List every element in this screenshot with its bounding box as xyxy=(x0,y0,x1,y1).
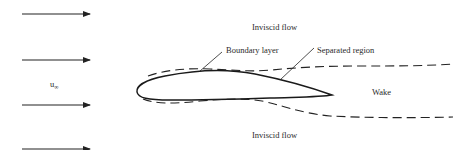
freestream-velocity-label: u∞ xyxy=(50,79,59,90)
separated-region-leader xyxy=(280,48,314,80)
boundary-layer-leader xyxy=(200,52,222,71)
airfoil-flow-diagram: u∞ Inviscid flow Boundary layer Separate… xyxy=(0,0,453,150)
boundary-layer-edge-lower xyxy=(143,99,453,118)
freestream-subscript: ∞ xyxy=(54,84,58,90)
boundary-layer-label: Boundary layer xyxy=(226,45,279,55)
boundary-layer-edge-upper xyxy=(148,64,453,76)
inviscid-flow-label-bottom: Inviscid flow xyxy=(252,130,298,140)
separated-region-label: Separated region xyxy=(317,45,375,55)
inviscid-flow-label-top: Inviscid flow xyxy=(252,22,298,32)
freestream-arrows xyxy=(22,14,90,149)
airfoil-body xyxy=(137,70,332,100)
wake-label: Wake xyxy=(372,87,391,97)
